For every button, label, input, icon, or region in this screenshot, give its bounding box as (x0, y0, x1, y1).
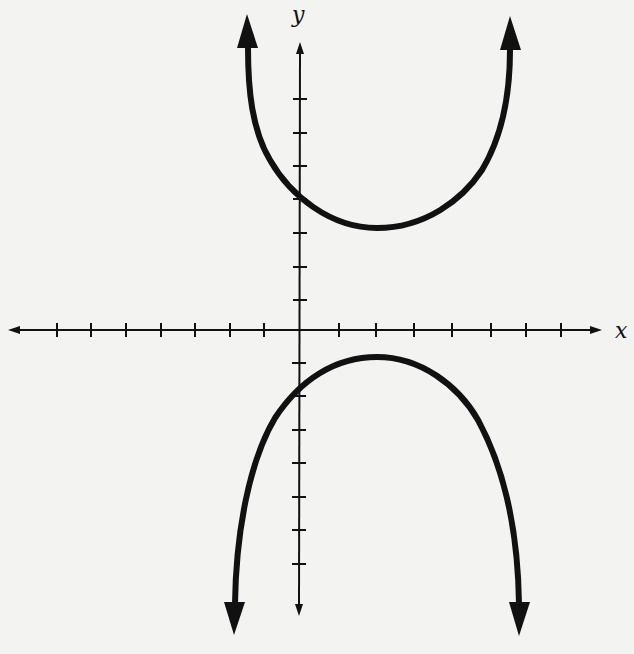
x-axis-right-arrow-icon (590, 326, 602, 334)
y-axis-label: y (292, 4, 304, 26)
upper-left-arrow-icon (237, 14, 258, 48)
x-axis-label: x (615, 320, 627, 342)
upper-right-arrow-icon (500, 16, 521, 50)
x-axis (8, 323, 602, 337)
lower-branch-curve (235, 357, 519, 604)
hyperbola-graph (0, 0, 634, 654)
y-axis-up-arrow-icon (296, 42, 304, 54)
lower-branch (224, 357, 530, 636)
x-axis-left-arrow-icon (8, 326, 20, 334)
lower-right-arrow-icon (509, 602, 530, 636)
upper-branch (237, 14, 521, 228)
lower-left-arrow-icon (224, 602, 245, 635)
upper-branch-curve (248, 48, 510, 228)
y-axis-down-arrow-icon (295, 604, 303, 616)
